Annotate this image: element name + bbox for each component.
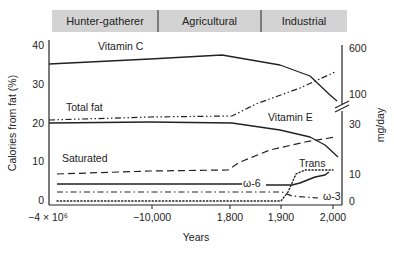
x-axis-title: Years: [183, 231, 209, 243]
era-label: Hunter-gatherer: [66, 15, 144, 27]
series-lines: [49, 55, 338, 201]
y-left-tick-label: 20: [32, 117, 44, 129]
series-line: [49, 55, 337, 101]
series-line: [57, 170, 333, 201]
y-right-tick-label: 600: [349, 42, 367, 54]
y-left-axis-title: Calories from fat (%): [6, 75, 18, 171]
series-label: ω-6: [243, 177, 261, 189]
x-tick-label: 1,900: [268, 211, 294, 223]
y-right-axis-title: mg/day: [374, 107, 386, 142]
y-right-ticks: 60010030100: [349, 42, 367, 207]
series-label: Trans: [299, 157, 325, 169]
series-labels: Vitamin CTotal fatVitamin ESaturatedω-6T…: [62, 40, 341, 202]
y-left-tick-label: 0: [38, 194, 44, 206]
era-label: Industrial: [282, 15, 327, 27]
y-right-tick-label: 100: [349, 88, 367, 100]
nutrition-history-chart: Hunter-gathererAgriculturalIndustrial −4…: [0, 0, 394, 254]
y-right-tick-label: 0: [349, 195, 355, 207]
series-label: ω-3: [323, 190, 341, 202]
y-left-tick-label: 30: [32, 78, 44, 90]
series-label: Total fat: [66, 101, 103, 113]
x-tick-label: 2,000: [320, 211, 346, 223]
era-banner: Hunter-gathererAgriculturalIndustrial: [52, 10, 347, 32]
series-label: Vitamin C: [98, 40, 144, 52]
x-tick-label: −10,000: [133, 211, 171, 223]
x-tick-label: −4 × 10⁶: [28, 211, 68, 223]
x-ticks: −4 × 10⁶−10,0001,8001,9002,000: [28, 205, 346, 223]
y-right-tick-label: 30: [349, 118, 361, 130]
x-tick-label: 1,800: [217, 211, 243, 223]
y-left-tick-label: 10: [32, 155, 44, 167]
series-label: Saturated: [62, 152, 108, 164]
y-right-tick-label: 10: [349, 168, 361, 180]
series-label: Vitamin E: [268, 111, 313, 123]
y-left-ticks: 403020100: [32, 39, 44, 206]
series-line: [57, 192, 318, 198]
y-left-tick-label: 40: [32, 39, 44, 51]
era-label: Agricultural: [182, 15, 237, 27]
